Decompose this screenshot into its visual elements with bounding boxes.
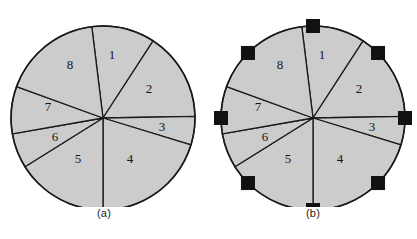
sector-label-3: 3 [159,119,166,134]
boundary-node-marker-1 [307,20,320,33]
boundary-node-marker-8 [241,46,254,59]
sector-label-1: 1 [319,47,326,62]
boundary-node-marker-4 [372,177,385,190]
sector-group [11,26,195,207]
sector-label-1: 1 [109,47,116,62]
diagram-panel-a: 12345678 (a) [0,0,208,239]
sector-label-8: 8 [277,57,284,72]
sector-label-5: 5 [75,151,82,166]
sector-label-4: 4 [337,151,344,166]
sector-label-2: 2 [356,81,363,96]
sector-label-6: 6 [52,129,59,144]
sector-label-7: 7 [45,99,52,114]
figure-root: 12345678 (a) 12345678 (b) [0,0,417,239]
sector-label-6: 6 [262,129,269,144]
sector-label-8: 8 [67,57,74,72]
pie-partition-diagram-b: 12345678 [209,0,417,207]
boundary-node-marker-6 [241,177,254,190]
sector-label-5: 5 [285,151,292,166]
sector-label-4: 4 [127,151,134,166]
pie-partition-diagram-a: 12345678 [0,0,208,207]
diagram-panel-b: 12345678 (b) [209,0,417,239]
sector-label-3: 3 [369,119,376,134]
sector-label-7: 7 [255,99,262,114]
boundary-node-marker-3 [399,112,412,125]
boundary-node-marker-7 [215,112,228,125]
boundary-node-marker-2 [372,46,385,59]
sector-label-2: 2 [146,81,153,96]
panel-caption-b: (b) [209,207,417,219]
panel-caption-a: (a) [0,207,208,219]
